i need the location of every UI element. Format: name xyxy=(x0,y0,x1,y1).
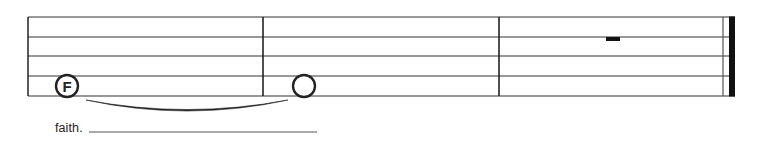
notes: F xyxy=(56,75,315,97)
final-barline-thick xyxy=(729,17,735,97)
lyric-text: faith. xyxy=(55,121,83,135)
tie-arc xyxy=(86,100,288,111)
rests xyxy=(606,37,620,41)
note-letter-label: F xyxy=(62,78,71,95)
note-circle xyxy=(293,75,315,97)
whole-note-head xyxy=(293,75,315,97)
tie-curve xyxy=(86,100,288,111)
note-head-f-labeled: F xyxy=(56,75,78,97)
whole-rest-icon xyxy=(606,37,620,41)
music-staff-score: F xyxy=(0,0,757,141)
staff-lines xyxy=(28,17,735,96)
